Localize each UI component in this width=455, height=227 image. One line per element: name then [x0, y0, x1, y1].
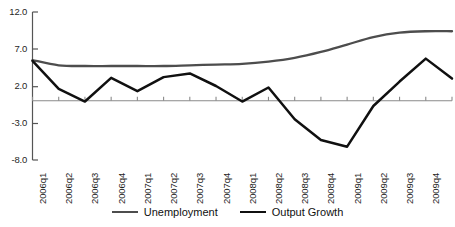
legend-entry-unemployment: Unemployment — [112, 206, 218, 218]
chart-legend: Unemployment Output Growth — [0, 206, 455, 218]
x-tick-label: 2008q1 — [247, 173, 258, 204]
legend-swatch-output-growth-icon — [240, 211, 266, 213]
x-tick-label: 2007q2 — [168, 173, 179, 204]
x-tick-label: 2007q1 — [142, 173, 153, 204]
series-lines — [33, 31, 453, 147]
x-tick-label: 2006q1 — [37, 173, 48, 204]
x-tick-label: 2008q3 — [299, 173, 310, 204]
legend-swatch-unemployment-icon — [112, 211, 138, 213]
y-tick-label: 2.0 — [1, 80, 27, 91]
y-tick-label: -8.0 — [1, 154, 27, 165]
x-tick-label: 2006q2 — [63, 173, 74, 204]
y-tick-label: -3.0 — [1, 117, 27, 128]
x-tick-label: 2008q2 — [273, 173, 284, 204]
x-tick-label: 2007q4 — [221, 173, 232, 204]
legend-label-output-growth: Output Growth — [272, 206, 344, 218]
y-tick-marks — [33, 12, 39, 160]
chart-figure: 12.07.02.0-3.0-8.0 2006q12006q22006q3200… — [0, 0, 455, 227]
x-tick-label: 2009q1 — [352, 173, 363, 204]
x-tick-label: 2008q4 — [325, 173, 336, 204]
series-line-output-growth — [33, 59, 453, 147]
legend-label-unemployment: Unemployment — [144, 206, 218, 218]
x-tick-label: 2006q3 — [89, 173, 100, 204]
x-tick-label: 2006q4 — [116, 173, 127, 204]
y-tick-label: 12.0 — [1, 6, 27, 17]
x-tick-label: 2009q3 — [404, 173, 415, 204]
x-tick-label: 2009q4 — [430, 173, 441, 204]
y-tick-label: 7.0 — [1, 43, 27, 54]
series-line-unemployment — [33, 31, 453, 66]
x-tick-label: 2007q3 — [194, 173, 205, 204]
x-tick-label: 2009q2 — [378, 173, 389, 204]
legend-entry-output-growth: Output Growth — [240, 206, 344, 218]
